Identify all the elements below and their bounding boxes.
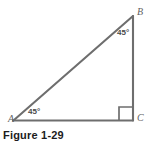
angle-label-b: 45° <box>117 29 129 37</box>
figure-caption: Figure 1-29 <box>3 129 64 141</box>
angle-label-a: 45° <box>28 108 40 116</box>
right-angle-square-icon <box>119 107 132 120</box>
right-triangle-diagram <box>0 0 151 148</box>
figure-container: A B C 45° 45° Figure 1-29 <box>0 0 151 148</box>
vertex-label-c: C <box>137 113 144 123</box>
vertex-label-b: B <box>137 7 143 17</box>
triangle-side-ab <box>14 16 133 120</box>
vertex-label-a: A <box>8 114 14 124</box>
